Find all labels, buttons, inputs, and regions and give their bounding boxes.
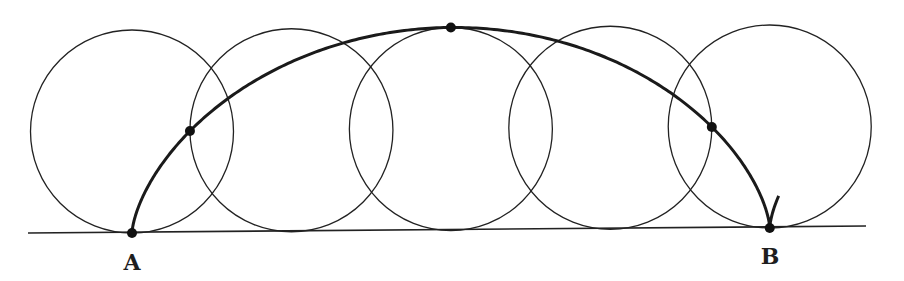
point-top — [446, 23, 456, 33]
point-B — [765, 223, 775, 233]
label-a: A — [122, 249, 141, 275]
ground-line — [28, 226, 866, 233]
label-b: B — [761, 243, 780, 269]
point-quarter — [185, 126, 195, 136]
rolling-circle-1 — [31, 30, 234, 233]
cycloid-curve — [132, 27, 779, 233]
rolling-circle-5 — [668, 25, 871, 228]
cycloid-diagram: A B — [0, 0, 904, 281]
point-A — [127, 228, 137, 238]
point-three-quarter — [707, 122, 717, 132]
rolling-circle-4 — [509, 26, 712, 229]
rolling-circle-3 — [349, 28, 552, 231]
rolling-circle-2 — [190, 29, 393, 232]
rolling-circles — [31, 25, 872, 233]
